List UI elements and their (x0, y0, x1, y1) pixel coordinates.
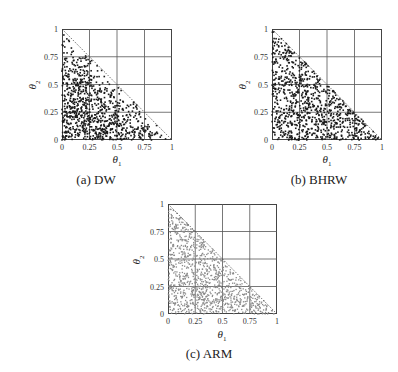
y-axis-label-arm: θ2 (130, 256, 145, 265)
y-tick-label: 0.5 (154, 255, 164, 264)
y-tick-label: 1 (160, 200, 164, 209)
x-tick-label: 0.5 (218, 317, 228, 326)
x-tick-label: 1 (275, 317, 279, 326)
x-tick-label: 0 (166, 317, 170, 326)
y-tick-label: 0.75 (150, 227, 164, 236)
y-tick-label: 0 (160, 310, 164, 319)
y-tick-label: 0.25 (150, 282, 164, 291)
caption-arm: (c) ARM (186, 346, 233, 362)
x-tick-label: 0.25 (188, 317, 202, 326)
x-tick-label: 0.75 (243, 317, 257, 326)
x-axis-label-arm: θ1 (218, 328, 227, 343)
